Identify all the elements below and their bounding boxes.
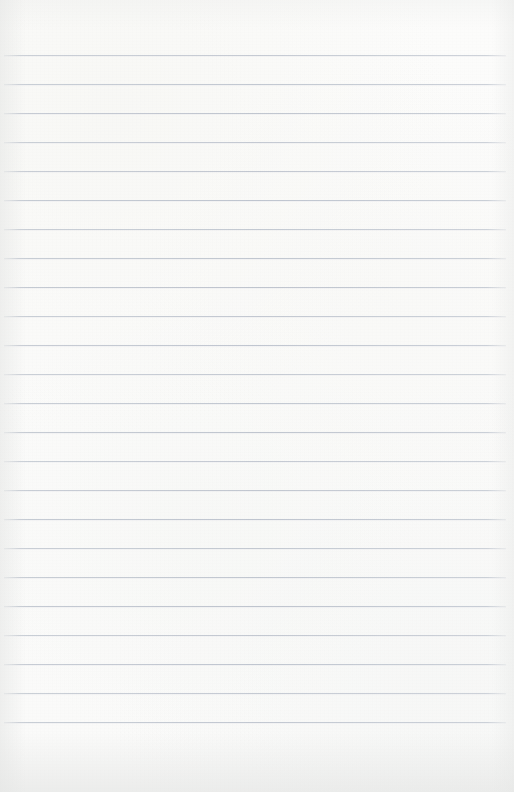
rule-line (4, 258, 506, 259)
rule-line (4, 490, 506, 491)
rule-line (4, 635, 506, 636)
rule-line (4, 316, 506, 317)
rule-line (4, 200, 506, 201)
rule-line (4, 142, 506, 143)
rule-line (4, 171, 506, 172)
rule-line (4, 403, 506, 404)
notebook-page (0, 0, 514, 792)
rule-line (4, 432, 506, 433)
rule-line (4, 577, 506, 578)
rule-line (4, 113, 506, 114)
rule-line (4, 519, 506, 520)
ruled-lines-group (0, 0, 514, 792)
rule-line (4, 548, 506, 549)
rule-line (4, 664, 506, 665)
rule-line (4, 374, 506, 375)
rule-line (4, 287, 506, 288)
rule-line (4, 606, 506, 607)
rule-line (4, 722, 506, 723)
rule-line (4, 461, 506, 462)
rule-line (4, 55, 506, 56)
rule-line (4, 345, 506, 346)
rule-line (4, 84, 506, 85)
rule-line (4, 229, 506, 230)
rule-line (4, 693, 506, 694)
